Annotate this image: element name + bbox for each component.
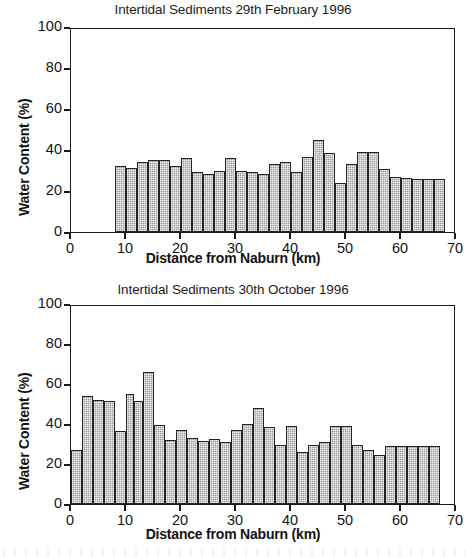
y-axis-tick-label: 100 — [4, 18, 62, 34]
y-axis-tick — [64, 27, 70, 29]
bar — [143, 372, 154, 504]
x-axis-tick-label: 0 — [45, 512, 95, 528]
y-axis-tick — [64, 384, 70, 386]
bar — [269, 164, 280, 232]
bar — [357, 152, 368, 232]
bar — [203, 174, 214, 232]
y-axis-tick — [64, 68, 70, 70]
x-axis-tick-label: 70 — [430, 512, 466, 528]
bar — [313, 140, 324, 232]
bar — [71, 450, 82, 504]
x-axis-tick — [454, 233, 456, 239]
x-axis-tick-label: 70 — [430, 240, 466, 256]
x-axis-tick — [234, 505, 236, 511]
bar — [115, 166, 126, 232]
bar — [104, 401, 115, 504]
bar — [324, 153, 335, 232]
y-axis-tick — [64, 109, 70, 111]
bar — [412, 179, 423, 232]
bar — [253, 408, 264, 504]
x-axis-tick-label: 10 — [100, 240, 150, 256]
y-axis-tick-label: 80 — [4, 59, 62, 75]
x-axis-tick — [124, 505, 126, 511]
x-axis-label-bottom: Distance from Naburn (km) — [0, 526, 466, 542]
bar — [264, 427, 275, 504]
bar — [423, 179, 434, 232]
y-axis-tick-label: 40 — [4, 415, 62, 431]
bar — [280, 162, 291, 232]
bar — [368, 152, 379, 232]
y-axis-tick-label: 100 — [4, 295, 62, 311]
bar — [126, 394, 134, 504]
bar — [137, 162, 148, 232]
y-axis-tick — [64, 424, 70, 426]
bar — [379, 169, 390, 232]
bar — [291, 172, 302, 232]
x-axis-tick — [69, 505, 71, 511]
page-scan-artifact — [0, 549, 466, 557]
bar — [341, 426, 352, 504]
x-axis-tick-label: 60 — [375, 512, 425, 528]
y-axis-tick-label: 20 — [4, 182, 62, 198]
bar — [352, 445, 363, 504]
y-axis-tick-label: 0 — [4, 495, 62, 511]
bar — [434, 179, 445, 232]
bar-series-october — [71, 306, 454, 504]
bar — [258, 174, 269, 232]
x-axis-tick — [289, 505, 291, 511]
bar — [225, 158, 236, 232]
bar — [159, 160, 170, 232]
figure-october-1996: Intertidal Sediments 30th October 1996 W… — [0, 278, 466, 558]
bar — [363, 450, 374, 504]
bar — [181, 158, 192, 232]
bar — [93, 400, 104, 504]
bar — [275, 445, 286, 504]
bar — [115, 431, 126, 504]
plot-area-february — [70, 28, 455, 233]
x-axis-tick — [399, 505, 401, 511]
y-axis-tick — [64, 191, 70, 193]
bar — [396, 446, 407, 504]
x-axis-tick — [344, 505, 346, 511]
x-axis-tick-label: 50 — [320, 512, 370, 528]
x-axis-tick — [454, 505, 456, 511]
x-axis-tick-label: 30 — [210, 240, 260, 256]
bar — [220, 442, 231, 504]
bar — [242, 424, 253, 504]
bar — [231, 430, 242, 504]
x-axis-tick-label: 20 — [155, 512, 205, 528]
bar — [165, 440, 176, 504]
bar — [374, 455, 385, 504]
x-axis-tick — [399, 233, 401, 239]
bar — [134, 401, 142, 504]
bar — [429, 446, 440, 504]
x-axis-tick-label: 40 — [265, 512, 315, 528]
x-axis-tick — [124, 233, 126, 239]
bar-series-february — [71, 29, 454, 232]
y-axis-tick-label: 20 — [4, 455, 62, 471]
x-axis-tick-label: 20 — [155, 240, 205, 256]
x-axis-tick — [234, 233, 236, 239]
y-axis-tick-label: 0 — [4, 223, 62, 239]
bar — [247, 172, 258, 232]
y-axis-tick-label: 60 — [4, 375, 62, 391]
bar — [385, 446, 396, 504]
y-axis-tick — [64, 150, 70, 152]
y-axis-tick — [64, 464, 70, 466]
chart-title-february: Intertidal Sediments 29th February 1996 — [0, 2, 466, 17]
bar — [148, 160, 159, 232]
y-axis-tick — [64, 304, 70, 306]
x-axis-tick — [69, 233, 71, 239]
chart-title-october: Intertidal Sediments 30th October 1996 — [0, 282, 466, 297]
bar — [418, 446, 429, 504]
bar — [407, 446, 418, 504]
bar — [170, 166, 181, 232]
bar — [126, 168, 137, 232]
bar — [209, 439, 220, 504]
bar — [390, 177, 401, 232]
bar — [187, 438, 198, 504]
bar — [236, 171, 247, 233]
y-axis-tick — [64, 344, 70, 346]
bar — [297, 452, 308, 504]
x-axis-tick — [179, 505, 181, 511]
